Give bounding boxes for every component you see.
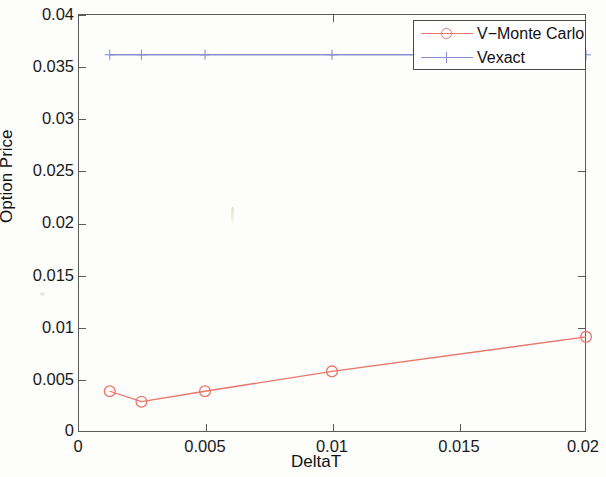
plot-area bbox=[78, 14, 586, 432]
y-tick-label: 0.04 bbox=[42, 5, 74, 24]
y-tick-mark bbox=[79, 67, 86, 68]
x-tick-mark bbox=[460, 424, 461, 431]
y-tick-mark bbox=[79, 119, 86, 120]
y-tick-mark bbox=[79, 276, 86, 277]
x-axis-title: DeltaT bbox=[0, 452, 606, 472]
chart-figure: Option Price 0.04 0.035 0.03 0.025 0.02 … bbox=[0, 0, 606, 477]
x-tick-mark bbox=[333, 424, 334, 431]
y-tick-mark bbox=[79, 380, 86, 381]
x-axis-title-text: DeltaT bbox=[291, 452, 341, 472]
legend-entry-vexact[interactable]: Vexact bbox=[414, 45, 585, 70]
x-tick-mark-top bbox=[333, 15, 334, 22]
plus-marker-icon bbox=[441, 52, 452, 63]
legend: V−Monte Carlo Vexact bbox=[413, 20, 586, 70]
legend-entry-monte-carlo[interactable]: V−Monte Carlo bbox=[414, 21, 585, 46]
y-tick-mark-right bbox=[578, 276, 585, 277]
y-tick-mark bbox=[79, 15, 86, 16]
y-axis-title: Option Price bbox=[0, 129, 17, 223]
y-tick-label: 0.025 bbox=[33, 161, 74, 180]
scan-artifact bbox=[40, 292, 45, 296]
y-tick-mark bbox=[79, 224, 86, 225]
y-tick-mark bbox=[79, 171, 86, 172]
y-tick-mark-right bbox=[578, 328, 585, 329]
y-tick-label: 0.035 bbox=[33, 57, 74, 76]
legend-label: V−Monte Carlo bbox=[477, 25, 584, 43]
y-tick-label: 0.005 bbox=[33, 370, 74, 389]
legend-label: Vexact bbox=[477, 49, 525, 67]
scan-artifact bbox=[231, 207, 234, 224]
y-tick-label: 0.02 bbox=[42, 213, 74, 232]
circle-marker-icon bbox=[441, 28, 452, 39]
y-tick-mark-right bbox=[578, 171, 585, 172]
legend-sample-monte-carlo bbox=[421, 24, 473, 44]
y-tick-label: 0.015 bbox=[33, 266, 74, 285]
y-tick-label: 0.03 bbox=[42, 109, 74, 128]
y-tick-label: 0.01 bbox=[42, 318, 74, 337]
x-tick-mark bbox=[206, 424, 207, 431]
y-tick-mark bbox=[79, 328, 86, 329]
legend-sample-vexact bbox=[421, 48, 473, 68]
